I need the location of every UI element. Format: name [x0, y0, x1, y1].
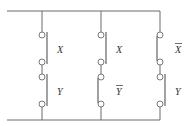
switch-x: X	[98, 32, 123, 65]
switch-label: Y	[175, 86, 182, 97]
switch-contact	[98, 74, 104, 80]
switch-label: Y	[57, 86, 64, 97]
switch-label: X	[115, 44, 123, 55]
branch-2: XY	[98, 11, 123, 120]
switching-circuit-diagram: XYXYXY	[0, 0, 186, 126]
switch-contact	[157, 101, 163, 107]
switch-contact	[39, 59, 45, 65]
switch-contact	[39, 74, 45, 80]
switch-label: X	[56, 44, 64, 55]
switch-contact	[39, 101, 45, 107]
switch-label: X	[174, 44, 182, 55]
switch-y: Y	[39, 74, 64, 107]
switch-label: Y	[116, 86, 123, 97]
switch-y-bar: Y	[98, 74, 123, 107]
switch-contact	[157, 74, 163, 80]
switch-contact	[98, 59, 104, 65]
switch-x-bar: X	[157, 32, 182, 65]
switch-x: X	[39, 32, 64, 65]
switch-contact	[98, 32, 104, 38]
branch-1: XY	[39, 11, 64, 120]
switch-y: Y	[157, 74, 182, 107]
switch-contact	[39, 32, 45, 38]
switch-contact	[98, 101, 104, 107]
switch-contact	[157, 59, 163, 65]
switch-contact	[157, 32, 163, 38]
branch-3: XY	[157, 11, 182, 120]
